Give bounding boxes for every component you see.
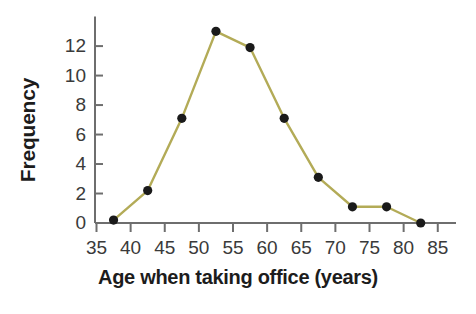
data-point-marker — [416, 218, 425, 227]
data-point-marker — [143, 186, 152, 195]
x-axis-ticks — [97, 223, 438, 232]
data-point-marker — [280, 114, 289, 123]
data-point-marker — [245, 43, 254, 52]
y-axis-ticks — [95, 46, 103, 223]
x-axis-title: Age when taking office (years) — [0, 266, 476, 289]
x-tick-label: 70 — [325, 237, 346, 259]
y-tick-label: 0 — [28, 212, 86, 234]
x-tick-label: 55 — [222, 237, 243, 259]
x-tick-label: 45 — [154, 237, 175, 259]
axes-group — [95, 17, 456, 233]
x-tick-label: 85 — [427, 237, 448, 259]
frequency-polygon-chart: 024681012 3540455055606570758085 Frequen… — [0, 0, 476, 314]
x-tick-label: 65 — [291, 237, 312, 259]
data-point-marker — [314, 173, 323, 182]
data-line — [114, 31, 421, 223]
data-point-marker — [177, 114, 186, 123]
x-tick-label: 50 — [188, 237, 209, 259]
data-point-marker — [348, 202, 357, 211]
x-tick-label: 80 — [393, 237, 414, 259]
data-series-group — [109, 27, 425, 228]
y-axis-title: Frequency — [16, 50, 40, 210]
data-point-marker — [109, 215, 118, 224]
data-markers — [109, 27, 425, 228]
x-tick-label: 40 — [120, 237, 141, 259]
x-tick-label: 75 — [359, 237, 380, 259]
x-tick-label: 35 — [86, 237, 107, 259]
data-point-marker — [211, 27, 220, 36]
x-tick-label: 60 — [257, 237, 278, 259]
data-point-marker — [382, 202, 391, 211]
